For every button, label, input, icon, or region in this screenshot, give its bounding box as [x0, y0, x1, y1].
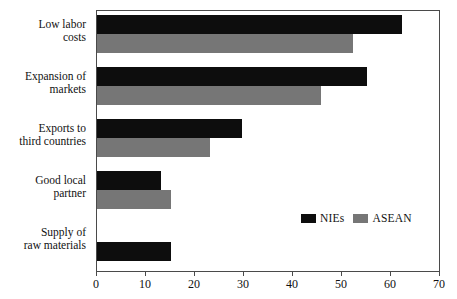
category-label-0-line-0: Low labor: [0, 18, 86, 31]
x-tick-3: [243, 272, 244, 276]
x-tick-7: [439, 272, 440, 276]
bar-asean-2: [97, 138, 210, 157]
category-label-2-line-0: Exports to: [0, 122, 86, 135]
legend-item-asean: ASEAN: [353, 212, 411, 224]
category-label-4: Supply of raw materials: [0, 226, 86, 251]
legend-swatch-asean-icon: [353, 214, 368, 223]
bar-asean-0: [97, 34, 353, 53]
x-tick-5: [341, 272, 342, 276]
x-tick-label-1: 10: [125, 277, 165, 292]
x-tick-label-4: 40: [272, 277, 312, 292]
category-label-1-line-0: Expansion of: [0, 70, 86, 83]
x-tick-label-3: 30: [223, 277, 263, 292]
x-axis: 0 10 20 30 40 50 60 70: [96, 272, 440, 298]
bar-nies-1: [97, 67, 367, 86]
x-tick-label-6: 60: [370, 277, 410, 292]
legend-item-nies: NIEs: [301, 212, 344, 224]
plot-area: NIEs ASEAN: [96, 10, 440, 272]
x-tick-1: [145, 272, 146, 276]
x-tick-label-7: 70: [419, 277, 457, 292]
x-tick-6: [390, 272, 391, 276]
category-label-4-line-1: raw materials: [0, 239, 86, 252]
bar-asean-1: [97, 86, 321, 105]
category-label-1: Expansion of markets: [0, 70, 86, 95]
bar-nies-3: [97, 171, 161, 190]
legend-label-nies: NIEs: [320, 212, 344, 224]
category-label-0-line-1: costs: [0, 31, 86, 44]
x-tick-4: [292, 272, 293, 276]
x-tick-label-5: 50: [321, 277, 361, 292]
category-label-3-line-0: Good local: [0, 174, 86, 187]
category-label-1-line-1: markets: [0, 83, 86, 96]
legend-label-asean: ASEAN: [372, 212, 411, 224]
x-tick-label-0: 0: [76, 277, 116, 292]
bar-asean-3: [97, 190, 171, 209]
bar-nies-0: [97, 15, 402, 34]
bar-chart: Low labor costs Expansion of markets Exp…: [0, 0, 457, 299]
x-tick-0: [96, 272, 97, 276]
bar-nies-4: [97, 242, 171, 261]
x-tick-label-2: 20: [174, 277, 214, 292]
category-label-2: Exports to third countries: [0, 122, 86, 147]
category-label-3-line-1: partner: [0, 187, 86, 200]
category-label-0: Low labor costs: [0, 18, 86, 43]
category-label-2-line-1: third countries: [0, 135, 86, 148]
bar-nies-2: [97, 119, 242, 138]
legend-swatch-nies-icon: [301, 214, 316, 223]
legend: NIEs ASEAN: [301, 212, 412, 224]
x-tick-2: [194, 272, 195, 276]
category-label-4-line-0: Supply of: [0, 226, 86, 239]
category-label-3: Good local partner: [0, 174, 86, 199]
